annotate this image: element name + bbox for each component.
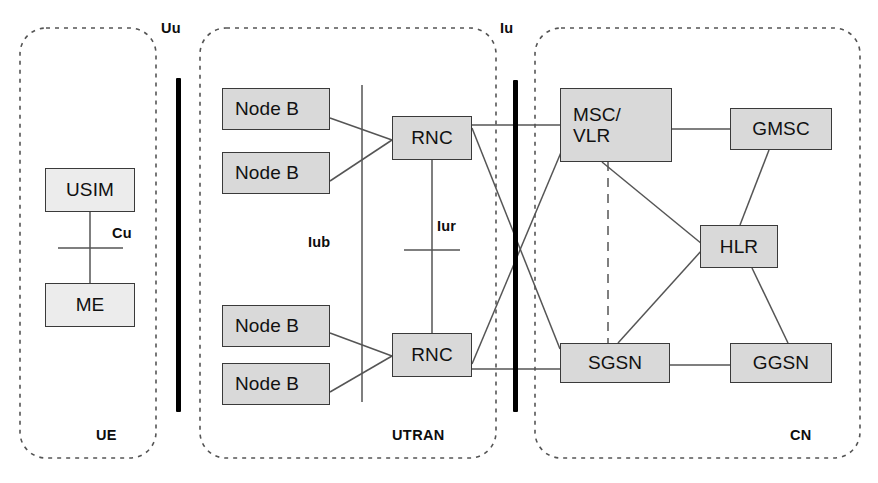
node-nodeb-3[interactable]: Node B <box>222 305 330 347</box>
node-rnc-2[interactable]: RNC <box>392 333 472 377</box>
domain-label-utran: UTRAN <box>392 427 445 443</box>
node-nodeb-2[interactable]: Node B <box>222 152 330 194</box>
umts-architecture-diagram: Uu Iu Iub Iur Cu UE UTRAN CN USIM ME Nod… <box>0 0 878 483</box>
links-nodeb-lower <box>330 333 392 392</box>
link-gmsc-hlr <box>740 150 769 225</box>
link-nodeb4-rnc2 <box>330 356 392 392</box>
link-hlr-sgsn <box>618 250 702 343</box>
node-gmsc[interactable]: GMSC <box>730 108 832 150</box>
domain-label-cn: CN <box>790 427 812 443</box>
domain-container-ue <box>20 28 156 458</box>
link-nodeb2-rnc1 <box>330 140 392 181</box>
node-ggsn[interactable]: GGSN <box>730 343 832 383</box>
iu-interface-bar <box>513 80 518 412</box>
node-me[interactable]: ME <box>45 283 135 327</box>
interface-label-uu: Uu <box>161 20 181 36</box>
link-nodeb3-rnc2 <box>330 333 392 356</box>
node-nodeb-1[interactable]: Node B <box>222 88 330 130</box>
node-sgsn[interactable]: SGSN <box>560 343 670 383</box>
interface-label-iu: Iu <box>500 20 513 36</box>
node-hlr[interactable]: HLR <box>700 225 778 268</box>
links-nodeb-upper <box>330 118 392 181</box>
interface-label-iur: Iur <box>437 218 456 234</box>
uu-interface-bar <box>176 78 181 412</box>
domain-label-ue: UE <box>96 427 117 443</box>
node-usim[interactable]: USIM <box>45 168 135 212</box>
link-nodeb1-rnc1 <box>330 118 392 140</box>
interface-label-cu: Cu <box>112 225 132 241</box>
links-ue <box>58 212 123 283</box>
interface-label-iub: Iub <box>308 234 330 250</box>
node-rnc-1[interactable]: RNC <box>392 116 472 160</box>
node-nodeb-4[interactable]: Node B <box>222 363 330 405</box>
links-iur <box>404 160 460 333</box>
node-msc-vlr[interactable]: MSC/ VLR <box>560 88 672 162</box>
link-hlr-ggsn <box>752 268 788 343</box>
link-mscvlr-hlr <box>602 162 702 244</box>
